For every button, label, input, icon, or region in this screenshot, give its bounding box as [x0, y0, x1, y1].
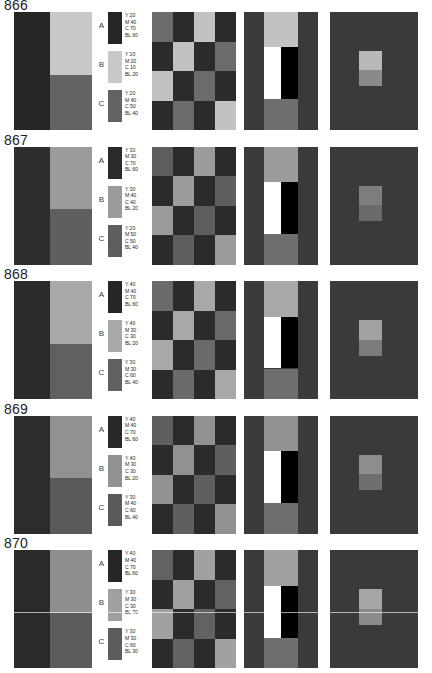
legend-entry: BY 20M 20C 10BL 20	[96, 51, 148, 84]
center-square-top	[359, 51, 382, 70]
legend-swatch	[108, 416, 122, 448]
legend-swatch	[108, 90, 122, 122]
checker-cell	[194, 281, 215, 311]
legend-value-line: M 30	[125, 366, 149, 373]
black-white-panel	[244, 550, 318, 668]
checker-cell	[215, 340, 236, 370]
checker-cell	[152, 550, 173, 580]
checker-cell	[152, 311, 173, 341]
checker-cell	[215, 71, 236, 101]
bw-top-band	[264, 147, 298, 182]
legend-value-line: C 10	[125, 64, 149, 71]
legend-swatch	[108, 359, 122, 391]
legend-label: B	[96, 599, 107, 607]
legend-value-line: Y 30	[125, 147, 149, 154]
row-panels: AY 40M 40C 70BL 60BY 40M 30C 30BL 20CY 3…	[0, 281, 432, 403]
proof-row: 868AY 40M 40C 70BL 60BY 40M 30C 30BL 20C…	[0, 269, 432, 404]
quadrant-left	[14, 281, 50, 399]
row-panels: AY 40M 40C 70BL 60BY 40M 30C 30BL 20CY 3…	[0, 416, 432, 538]
black-white-panel	[244, 416, 318, 534]
checker-cell	[194, 370, 215, 400]
legend-values: Y 20M 50C 50BL 40	[125, 225, 149, 251]
proof-sheet: 866AY 20M 40C 70BL 60BY 20M 20C 10BL 20C…	[0, 0, 432, 673]
bw-top-band	[264, 281, 298, 316]
checker-cell	[152, 12, 173, 42]
center-square-panel	[330, 147, 418, 265]
legend-value-line: Y 40	[125, 550, 149, 557]
row-title: 870	[4, 536, 28, 550]
proof-row: 867AY 30M 30C 70BL 60BY 30M 40C 40BL 20C…	[0, 135, 432, 270]
center-square-top	[359, 186, 382, 205]
center-square-panel	[330, 416, 418, 534]
quadrant-left	[14, 416, 50, 534]
center-square-panel	[330, 12, 418, 130]
legend-value-line: Y 40	[125, 281, 149, 288]
legend-value-line: BL 20	[125, 340, 149, 347]
checker-cell	[194, 475, 215, 505]
legend-values: Y 40M 30C 30BL 20	[125, 455, 149, 481]
legend-values: Y 40M 40C 70BL 60	[125, 416, 149, 442]
quadrant-left	[14, 147, 50, 265]
bw-white-patch	[264, 586, 281, 638]
legend-value-line: C 30	[125, 468, 149, 475]
legend-value-line: M 30	[125, 596, 149, 603]
checker-cell	[194, 42, 215, 72]
bw-white-patch	[264, 47, 281, 99]
checker-cell	[173, 42, 194, 72]
checker-cell	[173, 101, 194, 131]
center-square	[359, 186, 382, 221]
legend-swatch	[108, 550, 122, 582]
legend-value-line: BL 60	[125, 166, 149, 173]
checkerboard-panel	[152, 550, 236, 668]
legend-entry: AY 40M 40C 70BL 60	[96, 416, 148, 449]
proof-row: 870AY 40M 40C 70BL 60BY 30M 30C 30BL 70C…	[0, 538, 432, 673]
legend-value-line: C 60	[125, 642, 149, 649]
row-title: 868	[4, 267, 28, 281]
checker-cell	[215, 475, 236, 505]
legend-entry: CY 30M 30C 60BL 30	[96, 628, 148, 661]
bw-white-patch	[264, 451, 281, 503]
checker-cell	[173, 504, 194, 534]
legend-value-line: BL 20	[125, 205, 149, 212]
bw-black-patch	[281, 586, 298, 638]
quadrant-bottom-right	[50, 75, 92, 130]
checker-cell	[194, 639, 215, 669]
checker-cell	[152, 580, 173, 610]
black-white-panel	[244, 281, 318, 399]
legend-value-line: M 40	[125, 19, 149, 26]
checkerboard-panel	[152, 12, 236, 130]
legend-value-line: M 30	[125, 635, 149, 642]
checker-cell	[215, 370, 236, 400]
legend-entry: CY 20M 40C 50BL 40	[96, 90, 148, 123]
checker-cell	[173, 235, 194, 265]
center-square	[359, 589, 382, 624]
legend-values: Y 40M 40C 70BL 60	[125, 550, 149, 576]
bw-bottom-band	[264, 503, 298, 534]
legend-label: C	[96, 369, 107, 377]
color-legend: AY 40M 40C 70BL 60BY 40M 30C 30BL 20CY 3…	[96, 281, 148, 399]
checker-cell	[173, 416, 194, 446]
legend-label: B	[96, 61, 107, 69]
bw-bottom-band	[264, 369, 298, 400]
bw-top-band	[264, 12, 298, 47]
checker-cell	[152, 416, 173, 446]
legend-value-line: BL 40	[125, 244, 149, 251]
legend-value-line: BL 40	[125, 379, 149, 386]
legend-label: A	[96, 157, 107, 165]
legend-values: Y 30M 30C 70BL 60	[125, 147, 149, 173]
checker-cell	[173, 445, 194, 475]
legend-value-line: BL 60	[125, 32, 149, 39]
checker-cell	[173, 639, 194, 669]
checker-cell	[173, 176, 194, 206]
legend-label: B	[96, 330, 107, 338]
checker-cell	[173, 12, 194, 42]
quadrant-panel	[14, 416, 92, 534]
checker-cell	[215, 445, 236, 475]
quadrant-panel	[14, 12, 92, 130]
checker-cell	[152, 370, 173, 400]
legend-value-line: M 40	[125, 422, 149, 429]
checker-cell	[152, 176, 173, 206]
center-square-panel	[330, 550, 418, 668]
checker-cell	[194, 580, 215, 610]
checker-cell	[173, 340, 194, 370]
